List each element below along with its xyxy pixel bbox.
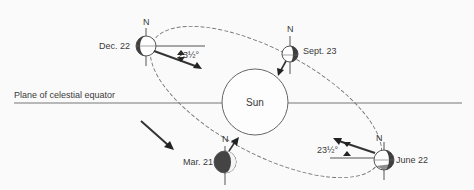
date-label-sept23: Sept. 23 xyxy=(303,47,337,56)
date-label-dec22: Dec. 22 xyxy=(99,42,130,51)
tilt-label-dec22: 23½° xyxy=(178,51,199,60)
tilt-label-june22: 23½° xyxy=(317,146,338,155)
earth-sept23 xyxy=(277,36,298,76)
date-label-june22: June 22 xyxy=(396,156,428,165)
north-label-sept23: N xyxy=(287,25,294,34)
date-label-mar21: Mar. 21 xyxy=(183,158,213,167)
orbit-diagram: Plane of celestial equator Sun N Dec. 22… xyxy=(0,0,474,190)
equator-label: Plane of celestial equator xyxy=(14,91,115,100)
north-label-dec22: N xyxy=(143,18,150,27)
earth-june22 xyxy=(330,138,394,180)
earth-dec22 xyxy=(136,28,205,69)
earth-mar21 xyxy=(214,137,239,185)
orbit-direction-arrow-icon xyxy=(141,121,174,150)
sun-label: Sun xyxy=(246,98,264,108)
north-label-mar21: N xyxy=(222,135,229,144)
north-label-june22: N xyxy=(376,134,383,143)
